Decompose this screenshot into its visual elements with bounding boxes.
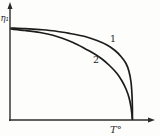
- chart-canvas: η₁ T° 1 2: [0, 0, 160, 136]
- y-axis-arrow-icon: [8, 2, 13, 9]
- curve-2-label: 2: [93, 54, 99, 65]
- efficiency-vs-temperature-figure: η₁ T° 1 2: [0, 0, 160, 136]
- y-axis-label: η₁: [1, 13, 10, 23]
- x-axis-label: T°: [110, 124, 122, 135]
- curve-1-label: 1: [110, 33, 116, 44]
- x-axis-arrow-icon: [148, 118, 155, 123]
